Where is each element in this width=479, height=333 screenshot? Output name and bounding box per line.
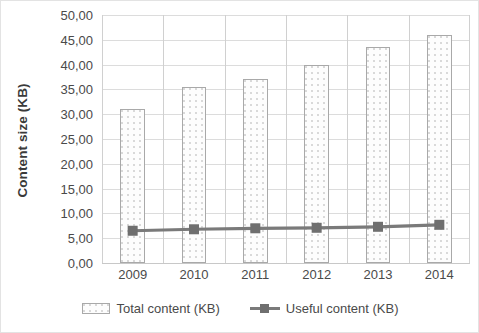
y-axis-title: Content size (KB) xyxy=(9,1,35,279)
y-axis-tick-label: 20,00 xyxy=(60,156,93,171)
x-axis-tick-label: 2009 xyxy=(118,267,147,282)
x-axis-tick-label: 2010 xyxy=(180,267,209,282)
line-marker xyxy=(250,223,260,233)
x-axis-tick-labels: 200920102011201220132014 xyxy=(102,267,470,289)
plot-area xyxy=(102,15,470,263)
y-axis-tick-labels: 0,005,0010,0015,0020,0025,0030,0035,0040… xyxy=(35,15,99,263)
y-axis-tick-label: 15,00 xyxy=(60,181,93,196)
chart-legend: Total content (KB) Useful content (KB) xyxy=(1,301,479,316)
line-series-useful-content xyxy=(102,15,470,263)
line-series-svg xyxy=(102,15,470,263)
line-marker xyxy=(312,223,322,233)
y-axis-tick-label: 5,00 xyxy=(68,231,93,246)
y-axis-tick-label: 0,00 xyxy=(68,256,93,271)
y-axis-title-label: Content size (KB) xyxy=(15,83,30,197)
legend-label-useful-content: Useful content (KB) xyxy=(286,301,399,316)
y-axis-tick-label: 50,00 xyxy=(60,8,93,23)
y-axis-tick-label: 10,00 xyxy=(60,206,93,221)
legend-item-total-content: Total content (KB) xyxy=(82,301,219,316)
line-marker xyxy=(189,224,199,234)
y-axis-tick-label: 30,00 xyxy=(60,107,93,122)
x-axis-tick-label: 2014 xyxy=(425,267,454,282)
line-marker xyxy=(373,222,383,232)
x-axis-tick-label: 2012 xyxy=(302,267,331,282)
x-axis-tick-label: 2011 xyxy=(241,267,269,282)
useful-content-line xyxy=(133,225,440,231)
x-axis-tick-label: 2013 xyxy=(364,267,393,282)
y-axis-tick-label: 45,00 xyxy=(60,32,93,47)
line-marker xyxy=(434,220,444,230)
swatch-square-marker xyxy=(260,304,269,313)
line-marker xyxy=(128,226,138,236)
x-axis-baseline xyxy=(102,263,470,264)
bar-swatch-icon xyxy=(82,303,110,314)
chart-container: Content size (KB) 0,005,0010,0015,0020,0… xyxy=(0,0,479,333)
legend-item-useful-content: Useful content (KB) xyxy=(250,301,399,316)
y-axis-tick-label: 25,00 xyxy=(60,132,93,147)
legend-label-total-content: Total content (KB) xyxy=(116,301,219,316)
line-square-swatch-icon xyxy=(250,303,280,314)
y-axis-tick-label: 40,00 xyxy=(60,57,93,72)
y-axis-tick-label: 35,00 xyxy=(60,82,93,97)
